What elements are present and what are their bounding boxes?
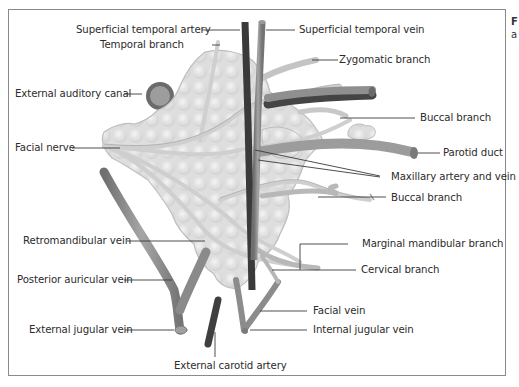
label-external-auditory-canal: External auditory canal: [15, 88, 131, 100]
label-zygomatic-branch: Zygomatic branch: [339, 54, 430, 66]
label-buccal-branch-upper: Buccal branch: [420, 112, 491, 124]
label-facial-nerve: Facial nerve: [15, 142, 75, 154]
label-superficial-temporal-artery: Superficial temporal artery: [76, 24, 211, 36]
zygomatic-branch-shape: [262, 60, 316, 78]
caption-fragment-line-1: F: [511, 16, 518, 28]
label-posterior-auricular-vein: Posterior auricular vein: [17, 274, 133, 286]
label-facial-vein: Facial vein: [313, 305, 365, 317]
label-external-carotid-artery: External carotid artery: [174, 360, 287, 372]
label-superficial-temporal-vein: Superficial temporal vein: [299, 24, 424, 36]
label-external-jugular-vein: External jugular vein: [29, 324, 133, 336]
label-marginal-mandibular-branch: Marginal mandibular branch: [362, 238, 503, 250]
label-internal-jugular-vein: Internal jugular vein: [313, 324, 414, 336]
label-maxillary-artery-and-vein: Maxillary artery and vein: [391, 171, 516, 183]
label-parotid-duct: Parotid duct: [443, 147, 503, 159]
label-retromandibular-vein: Retromandibular vein: [23, 235, 131, 247]
caption-fragment-line-2: a: [511, 29, 517, 41]
external-carotid-artery-shape: [208, 300, 218, 344]
label-temporal-branch: Temporal branch: [100, 39, 184, 51]
label-buccal-branch-lower: Buccal branch: [391, 192, 462, 204]
label-cervical-branch: Cervical branch: [361, 264, 439, 276]
